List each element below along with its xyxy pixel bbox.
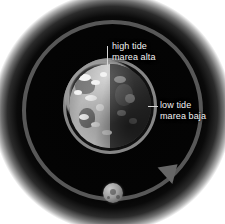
high-tide-label: high tide marea alta [112,41,156,62]
moon-globe [103,183,123,203]
high-tide-leader-line [107,46,108,66]
moon-crater [116,195,120,199]
high-tide-label-en: high tide [112,41,147,51]
earth-globe [69,64,151,148]
moon-crater [110,189,116,195]
low-tide-label: low tide marea baja [160,100,206,121]
low-tide-label-en: low tide [160,100,191,110]
high-tide-label-es: marea alta [112,52,156,63]
tides-diagram: high tide marea alta low tide marea baja [0,0,225,224]
earth-shading [69,64,151,148]
low-tide-leader-line [148,106,158,107]
low-tide-label-es: marea baja [160,111,206,122]
moon-crater [107,196,110,199]
